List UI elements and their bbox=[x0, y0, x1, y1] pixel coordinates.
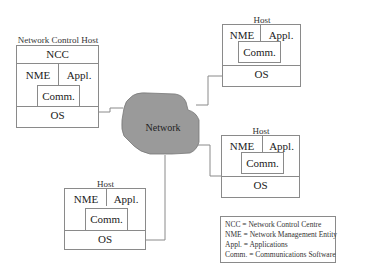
comm-label: Comm. bbox=[241, 157, 284, 169]
appl-label: Appl. bbox=[262, 29, 300, 41]
divider bbox=[16, 106, 99, 107]
divider bbox=[222, 65, 301, 66]
ncc-label: NCC bbox=[16, 48, 99, 60]
appl-label: Appl. bbox=[263, 140, 300, 152]
control-host-title: Network Control Host bbox=[16, 35, 100, 45]
comm-label: Comm. bbox=[238, 46, 281, 58]
nme-label: NME bbox=[223, 140, 261, 152]
nme-label: NME bbox=[224, 29, 260, 41]
legend-item: NME = Network Management Entity bbox=[225, 230, 331, 240]
network-label: Network bbox=[138, 122, 188, 133]
os-label: OS bbox=[222, 68, 301, 80]
comm-label: Comm. bbox=[37, 90, 80, 102]
os-label: OS bbox=[221, 179, 300, 191]
os-label: OS bbox=[16, 109, 99, 121]
divider bbox=[260, 24, 261, 41]
appl-label: Appl. bbox=[60, 69, 98, 81]
os-label: OS bbox=[64, 233, 146, 245]
appl-label: Appl. bbox=[107, 193, 145, 205]
legend-item: Comm. = Communications Software bbox=[225, 250, 331, 260]
legend: NCC = Network Control Centre NME = Netwo… bbox=[220, 216, 336, 263]
nme-label: NME bbox=[66, 193, 106, 205]
divider bbox=[221, 176, 300, 177]
divider bbox=[58, 63, 59, 85]
nme-label: NME bbox=[19, 69, 57, 81]
divider bbox=[64, 230, 146, 231]
comm-label: Comm. bbox=[85, 213, 128, 225]
legend-item: Appl. = Applications bbox=[225, 240, 331, 250]
legend-item: NCC = Network Control Centre bbox=[225, 220, 331, 230]
